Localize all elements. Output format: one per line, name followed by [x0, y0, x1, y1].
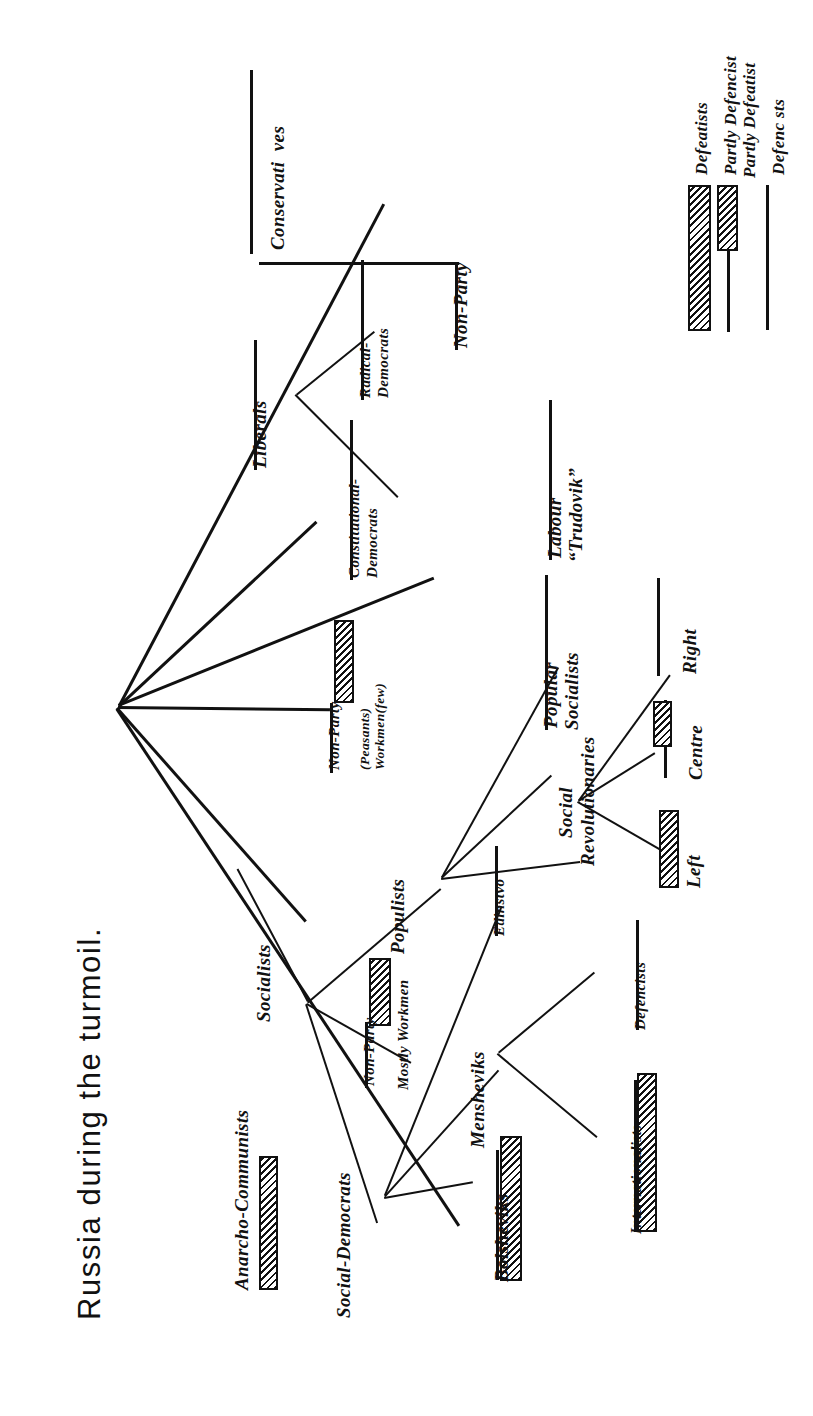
legend-swatch-defencists [766, 185, 769, 330]
node-populists[interactable]: Populists [388, 879, 409, 954]
node-liberals[interactable]: Liberals [250, 400, 271, 468]
node-sr-right[interactable]: Right [680, 629, 701, 674]
node-constitutional-democrats-line1[interactable]: Constitutional- [346, 479, 362, 578]
node-labour-line2[interactable]: “Trudovik” [566, 468, 587, 562]
node-constitutional-democrats-line2[interactable]: Democrats [364, 508, 380, 578]
node-anarcho-communists[interactable]: Anarcho-Communists [232, 1110, 253, 1290]
node-bolsheviks[interactable]: Bolsheviks [492, 1194, 513, 1282]
rule-nonparty-top [259, 262, 459, 265]
legend-label-defencists: Defenc sts [770, 99, 788, 175]
marker-sr-left [659, 810, 679, 888]
marker-nonparty-peasants [334, 620, 354, 703]
node-popular-socialists-line1[interactable]: Popular [541, 662, 562, 728]
edge-mensheviks-internationalists [497, 1053, 598, 1138]
edge-mensheviks-defencists [498, 972, 595, 1054]
marker-nonparty-workmen [369, 958, 391, 1026]
node-social-revolutionaries-line1[interactable]: Social [556, 787, 577, 838]
node-labour-line1[interactable]: Labour [545, 498, 566, 558]
node-internationalists[interactable]: Internationalists [628, 1125, 644, 1234]
edge-root-liberals [118, 521, 318, 707]
node-nonparty-top[interactable]: Non-Party [451, 262, 472, 348]
legend-label-partly-defencist: Partly Defencist [722, 56, 740, 175]
node-mostly-workmen: Mostly Workmen [395, 980, 411, 1090]
node-conservatives[interactable]: Conservati ves [268, 126, 289, 250]
edge-root-nonparty-peasants [118, 706, 330, 711]
node-edinstvo[interactable]: Edinstvo [491, 879, 507, 936]
legend-label-partly-defeatist: Partly Defeatist [741, 63, 759, 178]
node-nonparty-workmen[interactable]: Non-Party [361, 1017, 377, 1086]
edge-root-socialists [116, 707, 307, 922]
node-socialists[interactable]: Socialists [254, 944, 275, 1022]
node-mensheviks[interactable]: Mensheviks [468, 1051, 489, 1148]
legend-label-defeatists: Defeatists [693, 102, 711, 175]
node-sr-left[interactable]: Left [684, 855, 705, 888]
marker-sr-centre [653, 701, 672, 747]
rule-conservatives [250, 70, 253, 254]
legend-swatch-partly-bar [717, 185, 738, 251]
node-social-democrats[interactable]: Social-Democrats [334, 1172, 355, 1318]
node-sr-centre[interactable]: Centre [686, 725, 707, 780]
node-radical-democrats-line1[interactable]: Radical- [357, 342, 373, 398]
page-title: Russia during the turmoil. [72, 927, 108, 1320]
node-radical-democrats-line2[interactable]: Democrats [375, 328, 391, 398]
edge-populists-social-revolutionaries [441, 861, 580, 880]
node-peasants-sub1: (Peasants) [358, 708, 373, 771]
legend-swatch-defeatists [688, 185, 711, 331]
legend-swatch-partly-line [727, 250, 730, 332]
node-social-revolutionaries-line2[interactable]: Revolutionaries [578, 736, 599, 866]
marker-anarcho-communists [259, 1156, 278, 1290]
node-defencists[interactable]: Defencists [632, 962, 648, 1030]
node-popular-socialists-line2[interactable]: Socialists [562, 652, 583, 730]
rule-sr-right [657, 578, 660, 676]
figure-canvas: Russia during the turmoil. [0, 0, 813, 1416]
node-peasants-sub2: Workmen(few) [373, 683, 388, 770]
node-nonparty-peasants[interactable]: Non-Party [326, 701, 342, 770]
